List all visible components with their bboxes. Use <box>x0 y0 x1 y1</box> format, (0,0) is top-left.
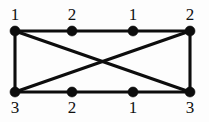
vertex-label-tr: 2 <box>179 6 201 23</box>
vertex-label-tm2: 1 <box>122 6 144 23</box>
vertex-node-bm1 <box>67 87 77 97</box>
vertex-node-br <box>185 87 195 97</box>
vertex-label-br: 3 <box>179 99 201 116</box>
graph-diagram: 12123213 <box>0 0 209 122</box>
vertex-node-bm2 <box>128 87 138 97</box>
vertex-label-tl: 1 <box>4 6 26 23</box>
vertex-node-tm2 <box>128 26 138 36</box>
vertex-node-tl <box>10 26 20 36</box>
graph-canvas <box>0 0 209 122</box>
vertex-node-tm1 <box>67 26 77 36</box>
vertex-label-tm1: 2 <box>61 6 83 23</box>
vertex-label-bm1: 2 <box>61 99 83 116</box>
vertex-node-bl <box>10 87 20 97</box>
edges-group <box>15 31 190 92</box>
vertex-label-bl: 3 <box>4 99 26 116</box>
vertex-label-bm2: 1 <box>122 99 144 116</box>
vertex-node-tr <box>185 26 195 36</box>
